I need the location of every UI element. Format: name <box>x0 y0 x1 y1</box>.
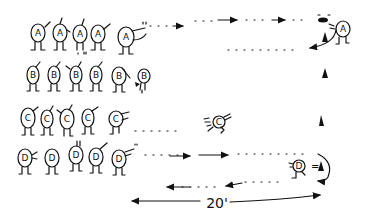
player-d-3: D <box>69 141 83 171</box>
distance-label: 20' <box>206 195 228 211</box>
player-a-1: A <box>31 22 50 50</box>
player-d-2: D <box>45 149 59 174</box>
dust-cloud <box>318 15 330 23</box>
row-d: D D D D D D <box>18 141 330 187</box>
player-d-5: D <box>112 144 137 175</box>
player-label: B <box>73 70 79 80</box>
player-c-4: C <box>82 107 98 134</box>
player-d-1: D <box>18 149 37 174</box>
player-c-2: C <box>41 106 53 135</box>
distance-arrow-right <box>230 195 320 202</box>
player-a-5: A <box>118 22 146 54</box>
player-d-4: D <box>89 143 107 173</box>
player-label: B <box>51 70 57 80</box>
equals-sign: = <box>311 161 319 172</box>
player-label: C <box>113 114 119 124</box>
player-c-1: C <box>21 107 38 135</box>
player-b-tagging: B <box>135 69 150 93</box>
player-a-4: A <box>91 24 110 50</box>
player-a-2: A <box>53 18 70 50</box>
player-label: A <box>340 24 347 34</box>
player-label: B <box>141 71 147 81</box>
player-c-running: C <box>204 114 231 133</box>
player-label: D <box>296 161 303 171</box>
player-label: C <box>25 113 31 123</box>
player-b-1: B <box>27 62 40 91</box>
player-label: C <box>44 114 50 124</box>
cone-icon <box>322 32 328 42</box>
player-label: A <box>95 29 102 39</box>
player-label: B <box>116 71 122 81</box>
player-b-2: B <box>48 62 60 91</box>
cone-icon <box>319 115 324 126</box>
player-b-5: B <box>112 67 130 92</box>
player-label: C <box>64 114 70 124</box>
player-label: C <box>85 113 91 123</box>
player-label: D <box>116 154 123 164</box>
player-label: B <box>30 70 36 80</box>
player-label: A <box>35 28 42 38</box>
player-label: A <box>123 32 130 42</box>
row-c: C C C C C C <box>21 105 324 136</box>
player-c-5: C <box>109 111 129 134</box>
row-a: A A A A A <box>31 15 350 54</box>
player-d-at-cone: D <box>289 160 305 178</box>
player-c-3: C <box>57 105 74 136</box>
player-label: C <box>216 117 222 127</box>
player-a-running: A <box>329 21 350 44</box>
row-b: B B B B B B <box>27 62 328 93</box>
arrow-left <box>226 183 242 186</box>
player-a-3: A <box>73 19 87 54</box>
player-label: D <box>73 150 80 160</box>
player-label: D <box>22 153 29 163</box>
relay-drill-diagram: A A A A A <box>0 0 369 221</box>
cone-icon <box>322 68 328 78</box>
player-label: D <box>93 152 100 162</box>
player-label: A <box>77 29 84 39</box>
player-label: D <box>49 153 56 163</box>
player-b-4: B <box>90 62 102 91</box>
player-b-3: B <box>66 62 82 91</box>
player-label: B <box>93 70 99 80</box>
player-label: A <box>57 28 64 38</box>
distance-marker: 20' <box>132 195 320 211</box>
